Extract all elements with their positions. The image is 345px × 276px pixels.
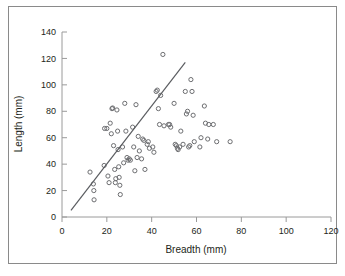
data-point xyxy=(137,149,141,153)
x-tick-label: 40 xyxy=(147,226,157,236)
data-point xyxy=(202,104,206,108)
data-point xyxy=(136,134,140,138)
data-point xyxy=(162,124,166,128)
data-point xyxy=(92,188,96,192)
data-point xyxy=(157,122,161,126)
data-point xyxy=(199,136,203,140)
x-axis-ticks xyxy=(62,217,331,222)
data-point xyxy=(139,157,143,161)
data-point xyxy=(198,145,202,149)
data-point xyxy=(115,129,119,133)
scatter-plot: 020406080100120140 020406080100120 Bread… xyxy=(0,0,345,276)
scatter-data-points xyxy=(88,52,232,202)
axis-lines xyxy=(62,32,331,217)
data-point xyxy=(228,140,232,144)
data-point xyxy=(124,129,128,133)
data-point xyxy=(135,155,139,159)
data-point xyxy=(111,144,115,148)
y-tick-label: 0 xyxy=(51,212,56,222)
x-axis-tick-labels: 020406080100120 xyxy=(59,226,338,236)
y-tick-label: 20 xyxy=(46,186,56,196)
data-point xyxy=(133,169,137,173)
data-point xyxy=(190,89,194,93)
data-point xyxy=(181,142,185,146)
data-point xyxy=(108,121,112,125)
data-point xyxy=(161,52,165,56)
y-axis-title: Length (mm) xyxy=(13,96,24,153)
data-point xyxy=(183,89,187,93)
data-point xyxy=(118,183,122,187)
data-point xyxy=(156,107,160,111)
data-point xyxy=(123,101,127,105)
data-point xyxy=(179,129,183,133)
x-tick-label: 100 xyxy=(279,226,294,236)
data-point xyxy=(172,101,176,105)
data-point xyxy=(206,137,210,141)
y-tick-label: 60 xyxy=(46,133,56,143)
data-point xyxy=(88,170,92,174)
data-point xyxy=(109,132,113,136)
y-axis-tick-labels: 020406080100120140 xyxy=(41,27,56,222)
y-tick-label: 40 xyxy=(46,159,56,169)
x-tick-label: 80 xyxy=(236,226,246,236)
data-point xyxy=(132,145,136,149)
data-point xyxy=(191,113,195,117)
x-tick-label: 20 xyxy=(102,226,112,236)
data-point xyxy=(134,103,138,107)
y-axis-ticks xyxy=(62,32,67,217)
x-axis-title: Breadth (mm) xyxy=(165,244,226,255)
data-point xyxy=(192,140,196,144)
x-tick-label: 60 xyxy=(191,226,201,236)
data-point xyxy=(122,161,126,165)
data-point xyxy=(211,122,215,126)
data-point xyxy=(189,77,193,81)
data-point xyxy=(107,181,111,185)
chart-figure: 020406080100120140 020406080100120 Bread… xyxy=(0,0,345,276)
x-tick-label: 120 xyxy=(323,226,338,236)
y-tick-label: 80 xyxy=(46,106,56,116)
y-tick-label: 100 xyxy=(41,80,56,90)
x-tick-label: 0 xyxy=(59,226,64,236)
data-point xyxy=(106,174,110,178)
data-point xyxy=(143,167,147,171)
data-point xyxy=(118,192,122,196)
y-tick-label: 140 xyxy=(41,27,56,37)
data-point xyxy=(113,167,117,171)
data-point xyxy=(92,198,96,202)
data-point xyxy=(117,165,121,169)
y-tick-label: 120 xyxy=(41,54,56,64)
trend-line xyxy=(71,62,185,210)
data-point xyxy=(215,140,219,144)
data-point xyxy=(115,108,119,112)
data-point xyxy=(152,150,156,154)
